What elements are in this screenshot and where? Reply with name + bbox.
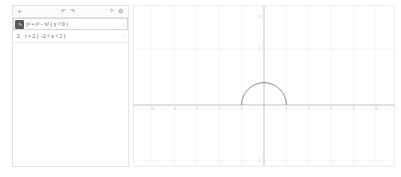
add-expression-button[interactable]: + bbox=[15, 7, 24, 16]
svg-text:-6: -6 bbox=[195, 107, 198, 111]
undo-icon[interactable]: ↶ bbox=[59, 7, 68, 16]
svg-text:-5: -5 bbox=[258, 159, 261, 163]
expression-row-1[interactable]: ∿ y² = r² − x² { y > 0 } › bbox=[13, 18, 128, 30]
expression-empty-area[interactable] bbox=[13, 43, 128, 163]
expression-text[interactable]: r = 2 { −2 < x < 2 } bbox=[25, 33, 66, 39]
svg-text:-10: -10 bbox=[150, 107, 155, 111]
chevron-down-icon[interactable]: › bbox=[123, 21, 125, 27]
gear-icon[interactable]: ⚙ bbox=[116, 7, 125, 16]
expression-list: ∿ y² = r² − x² { y > 0 } › 2 r = 2 { −2 … bbox=[13, 18, 128, 163]
svg-text:10: 10 bbox=[257, 15, 261, 19]
graph-panel[interactable]: -10 -8 -6 -4 -2 2 4 6 8 10 5 -5 10 bbox=[133, 5, 395, 167]
expression-panel: + ↶ ↷ ? ⚙ ∿ y² = r² − x² { y > 0 } › 2 r… bbox=[12, 5, 129, 167]
chevron-down-icon[interactable]: › bbox=[124, 32, 126, 38]
row-index-label: 2 bbox=[14, 32, 23, 41]
expression-row-2[interactable]: 2 r = 2 { −2 < x < 2 } › bbox=[13, 30, 128, 43]
help-icon[interactable]: ? bbox=[107, 7, 116, 16]
svg-text:10: 10 bbox=[374, 107, 378, 111]
expression-toolbar: + ↶ ↷ ? ⚙ bbox=[13, 6, 128, 18]
svg-text:5: 5 bbox=[259, 47, 261, 51]
expression-text[interactable]: y² = r² − x² { y > 0 } bbox=[26, 21, 69, 27]
svg-text:8: 8 bbox=[353, 107, 355, 111]
graph-canvas[interactable]: -10 -8 -6 -4 -2 2 4 6 8 10 5 -5 10 bbox=[134, 6, 394, 166]
svg-text:-2: -2 bbox=[240, 107, 243, 111]
redo-icon[interactable]: ↷ bbox=[68, 7, 77, 16]
svg-text:-8: -8 bbox=[173, 107, 176, 111]
svg-text:6: 6 bbox=[330, 107, 332, 111]
curve-color-swatch[interactable]: ∿ bbox=[15, 20, 24, 29]
svg-text:4: 4 bbox=[308, 107, 310, 111]
svg-text:2: 2 bbox=[285, 107, 287, 111]
svg-text:-4: -4 bbox=[218, 107, 221, 111]
y-tick-labels: 5 -5 10 bbox=[257, 15, 261, 163]
graphing-calculator-app: + ↶ ↷ ? ⚙ ∿ y² = r² − x² { y > 0 } › 2 r… bbox=[0, 0, 401, 177]
